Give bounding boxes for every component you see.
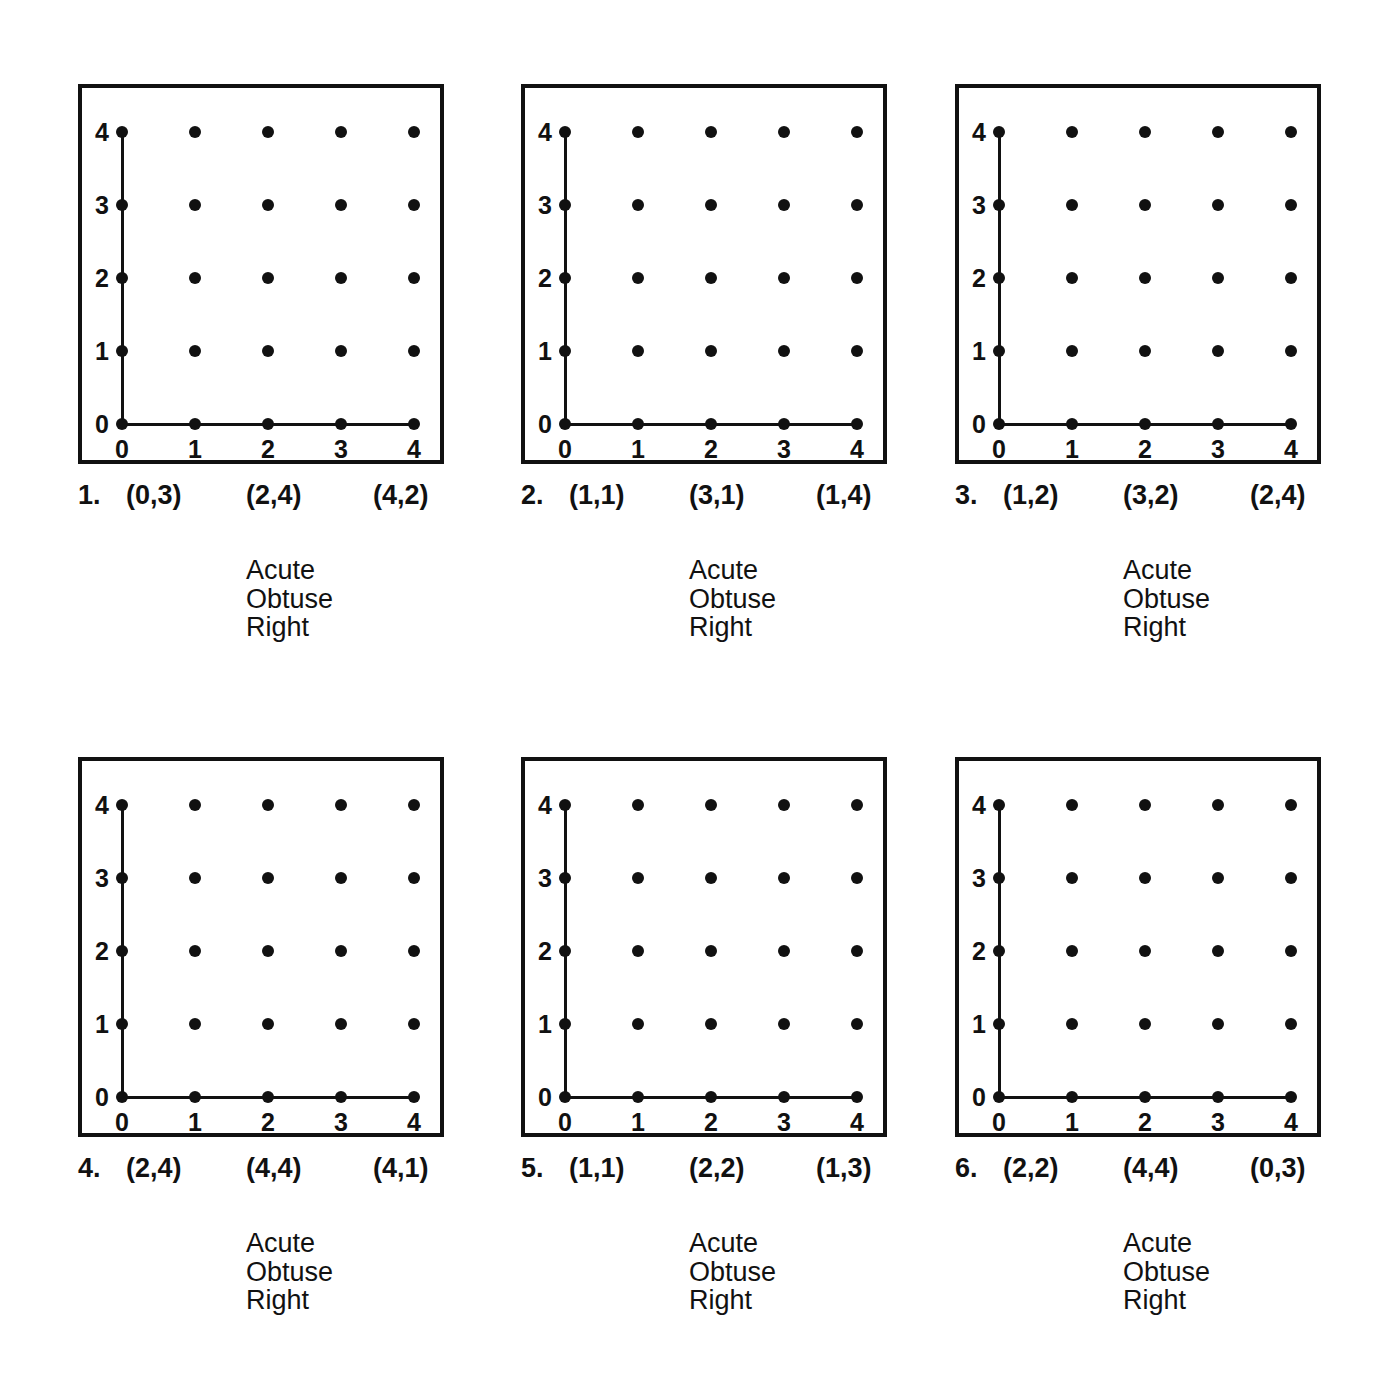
lattice-dot[interactable] — [1212, 945, 1224, 957]
lattice-dot[interactable] — [705, 126, 717, 138]
answer-choice-obtuse[interactable]: Obtuse — [1123, 585, 1210, 614]
lattice-dot[interactable] — [851, 1018, 863, 1030]
answer-choice-acute[interactable]: Acute — [689, 1229, 776, 1258]
lattice-dot[interactable] — [778, 272, 790, 284]
lattice-dot[interactable] — [408, 945, 420, 957]
lattice-dot[interactable] — [1285, 272, 1297, 284]
lattice-dot[interactable] — [705, 945, 717, 957]
lattice-dot[interactable] — [408, 345, 420, 357]
lattice-dot[interactable] — [851, 126, 863, 138]
lattice-dot[interactable] — [408, 272, 420, 284]
lattice-dot[interactable] — [1285, 799, 1297, 811]
lattice-dot[interactable] — [1212, 345, 1224, 357]
answer-choice-obtuse[interactable]: Obtuse — [246, 1258, 333, 1287]
lattice-dot[interactable] — [189, 126, 201, 138]
lattice-dot[interactable] — [408, 799, 420, 811]
lattice-dot[interactable] — [851, 345, 863, 357]
lattice-dot[interactable] — [408, 199, 420, 211]
lattice-dot[interactable] — [1139, 872, 1151, 884]
lattice-dot[interactable] — [632, 345, 644, 357]
answer-choice-right[interactable]: Right — [1123, 1286, 1210, 1315]
answer-choice-right[interactable]: Right — [1123, 613, 1210, 642]
lattice-dot[interactable] — [189, 945, 201, 957]
lattice-dot[interactable] — [778, 199, 790, 211]
lattice-dot[interactable] — [1212, 126, 1224, 138]
answer-choice-acute[interactable]: Acute — [246, 556, 333, 585]
lattice-dot[interactable] — [1139, 272, 1151, 284]
lattice-dot[interactable] — [189, 199, 201, 211]
lattice-dot[interactable] — [778, 799, 790, 811]
lattice-dot[interactable] — [778, 345, 790, 357]
lattice-dot[interactable] — [851, 272, 863, 284]
lattice-dot[interactable] — [778, 945, 790, 957]
lattice-dot[interactable] — [189, 1018, 201, 1030]
lattice-dot[interactable] — [1212, 799, 1224, 811]
answer-choice-obtuse[interactable]: Obtuse — [689, 1258, 776, 1287]
lattice-dot[interactable] — [851, 799, 863, 811]
lattice-dot[interactable] — [335, 1018, 347, 1030]
lattice-dot[interactable] — [262, 199, 274, 211]
lattice-dot[interactable] — [1139, 799, 1151, 811]
lattice-dot[interactable] — [335, 345, 347, 357]
lattice-dot[interactable] — [1066, 1018, 1078, 1030]
lattice-dot[interactable] — [705, 799, 717, 811]
lattice-dot[interactable] — [1285, 1018, 1297, 1030]
answer-choice-right[interactable]: Right — [246, 1286, 333, 1315]
answer-choice-obtuse[interactable]: Obtuse — [1123, 1258, 1210, 1287]
answer-choice-acute[interactable]: Acute — [1123, 556, 1210, 585]
lattice-dot[interactable] — [632, 945, 644, 957]
lattice-dot[interactable] — [1066, 945, 1078, 957]
lattice-dot[interactable] — [189, 272, 201, 284]
lattice-dot[interactable] — [851, 945, 863, 957]
lattice-dot[interactable] — [1066, 872, 1078, 884]
answer-choice-acute[interactable]: Acute — [1123, 1229, 1210, 1258]
lattice-dot[interactable] — [705, 272, 717, 284]
lattice-dot[interactable] — [632, 199, 644, 211]
lattice-dot[interactable] — [1066, 345, 1078, 357]
lattice-dot[interactable] — [335, 199, 347, 211]
lattice-dot[interactable] — [705, 345, 717, 357]
lattice-dot[interactable] — [1285, 199, 1297, 211]
lattice-dot[interactable] — [1139, 345, 1151, 357]
lattice-dot[interactable] — [1066, 799, 1078, 811]
lattice-dot[interactable] — [778, 1018, 790, 1030]
lattice-dot[interactable] — [632, 1018, 644, 1030]
lattice-dot[interactable] — [408, 1018, 420, 1030]
lattice-dot[interactable] — [262, 872, 274, 884]
lattice-dot[interactable] — [632, 799, 644, 811]
answer-choice-right[interactable]: Right — [689, 613, 776, 642]
lattice-dot[interactable] — [851, 199, 863, 211]
lattice-dot[interactable] — [335, 872, 347, 884]
lattice-dot[interactable] — [1139, 1018, 1151, 1030]
lattice-dot[interactable] — [335, 272, 347, 284]
lattice-dot[interactable] — [632, 272, 644, 284]
answer-choice-right[interactable]: Right — [689, 1286, 776, 1315]
lattice-dot[interactable] — [1212, 199, 1224, 211]
lattice-dot[interactable] — [778, 872, 790, 884]
lattice-dot[interactable] — [335, 945, 347, 957]
answer-choice-acute[interactable]: Acute — [689, 556, 776, 585]
lattice-dot[interactable] — [1285, 345, 1297, 357]
answer-choice-obtuse[interactable]: Obtuse — [246, 585, 333, 614]
lattice-dot[interactable] — [262, 799, 274, 811]
lattice-dot[interactable] — [1066, 126, 1078, 138]
lattice-dot[interactable] — [705, 1018, 717, 1030]
lattice-dot[interactable] — [1066, 272, 1078, 284]
lattice-dot[interactable] — [262, 1018, 274, 1030]
answer-choice-acute[interactable]: Acute — [246, 1229, 333, 1258]
lattice-dot[interactable] — [262, 272, 274, 284]
lattice-dot[interactable] — [1212, 872, 1224, 884]
lattice-dot[interactable] — [705, 199, 717, 211]
lattice-dot[interactable] — [335, 799, 347, 811]
lattice-dot[interactable] — [189, 872, 201, 884]
lattice-dot[interactable] — [1212, 272, 1224, 284]
lattice-dot[interactable] — [262, 345, 274, 357]
lattice-dot[interactable] — [1066, 199, 1078, 211]
lattice-dot[interactable] — [262, 126, 274, 138]
lattice-dot[interactable] — [1139, 199, 1151, 211]
lattice-dot[interactable] — [1285, 945, 1297, 957]
lattice-dot[interactable] — [189, 345, 201, 357]
lattice-dot[interactable] — [632, 872, 644, 884]
lattice-dot[interactable] — [851, 872, 863, 884]
lattice-dot[interactable] — [1212, 1018, 1224, 1030]
